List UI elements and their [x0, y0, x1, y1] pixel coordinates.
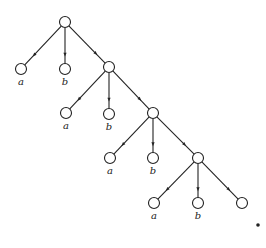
tree-edge [202, 162, 238, 199]
tree-edge [114, 117, 149, 154]
tree-nodes [16, 17, 248, 209]
tree-node [237, 198, 248, 209]
node-label-a: a [63, 120, 69, 131]
tree-edge [157, 117, 194, 154]
tree-node [104, 62, 115, 73]
tree-node [105, 153, 116, 164]
tree-edges [25, 26, 238, 199]
tree-diagram: abababab [0, 0, 266, 248]
arrow-icon [63, 53, 66, 57]
tree-node [193, 153, 204, 164]
tree-edge [70, 71, 105, 109]
tree-node [149, 198, 160, 209]
node-label-b: b [62, 76, 68, 87]
node-label-a: a [151, 210, 157, 221]
tree-node [104, 109, 115, 120]
node-label-b: b [106, 121, 112, 132]
tree-edge [69, 26, 105, 63]
tree-node [61, 108, 72, 119]
arrow-icon [196, 187, 199, 191]
tree-node [148, 108, 159, 119]
node-label-b: b [195, 210, 201, 221]
tree-edge [158, 162, 194, 199]
tree-node [193, 198, 204, 209]
tree-node [60, 64, 71, 75]
arrow-icon [107, 98, 110, 102]
node-label-a: a [18, 76, 24, 87]
tree-node [16, 64, 27, 75]
arrow-icon [151, 142, 154, 146]
node-label-a: a [107, 165, 113, 176]
tree-node [148, 153, 159, 164]
tree-edge [25, 26, 61, 65]
continuation-dot [256, 223, 260, 227]
tree-node [60, 17, 71, 28]
node-labels: abababab [18, 76, 201, 221]
tree-edge [113, 71, 149, 109]
node-label-b: b [150, 165, 156, 176]
